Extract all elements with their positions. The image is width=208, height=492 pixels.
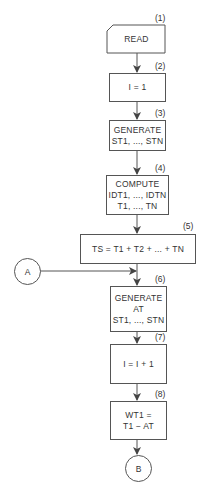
step-3-line-2: ST1, ..., STN — [112, 136, 164, 147]
step-7-increment: I = I + 1 — [110, 344, 167, 384]
step-6-line-2: AT — [133, 304, 144, 315]
step-4-compute: COMPUTE IDT1, ..., IDTN T1, ..., TN — [106, 175, 169, 215]
step-7-text: I = I + 1 — [123, 359, 154, 370]
step-2-text: I = 1 — [129, 82, 147, 93]
step-8-wait-time: WT1 = T1 − AT — [110, 401, 167, 440]
step-5-number: (5) — [183, 221, 193, 231]
step-8-line-2: T1 − AT — [123, 421, 154, 432]
step-4-line-3: T1, ..., TN — [118, 201, 158, 212]
connector-b-label: B — [136, 464, 142, 474]
step-1-read: READ — [107, 25, 166, 54]
step-5-text: TS = T1 + T2 + ... + TN — [92, 244, 184, 255]
step-6-generate-at: GENERATE AT ST1, ..., STN — [110, 286, 167, 332]
step-3-generate: GENERATE ST1, ..., STN — [109, 120, 166, 151]
step-4-number: (4) — [155, 163, 165, 173]
step-6-line-1: GENERATE — [115, 293, 163, 304]
step-8-line-1: WT1 = — [125, 410, 151, 421]
step-1-number: (1) — [155, 13, 165, 23]
step-2-number: (2) — [155, 61, 165, 71]
step-3-number: (3) — [155, 108, 165, 118]
step-6-line-3: ST1, ..., STN — [113, 315, 165, 326]
step-6-number: (6) — [155, 274, 165, 284]
connector-a: A — [14, 258, 41, 285]
step-4-line-2: IDT1, ..., IDTN — [109, 190, 167, 201]
step-7-number: (7) — [155, 332, 165, 342]
step-8-number: (8) — [155, 389, 165, 399]
connector-b: B — [125, 455, 152, 482]
step-4-line-1: COMPUTE — [116, 179, 160, 190]
step-5-sum: TS = T1 + T2 + ... + TN — [80, 234, 196, 264]
step-2-init: I = 1 — [109, 73, 166, 102]
step-1-text: READ — [124, 34, 148, 45]
step-3-line-1: GENERATE — [114, 125, 162, 136]
connector-a-label: A — [25, 267, 31, 277]
